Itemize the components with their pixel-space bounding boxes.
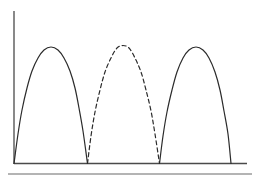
figure-root [0,0,258,182]
plot-canvas [0,0,258,182]
figure-background [0,0,258,182]
